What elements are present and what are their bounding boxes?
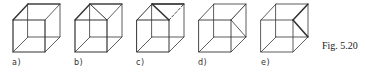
panel-label-c: c) [136, 58, 145, 67]
panel-label-d: d) [198, 58, 207, 67]
panel-label-e: e) [261, 58, 270, 67]
cubes-drawing [0, 0, 365, 72]
cube-e [261, 4, 308, 52]
cube-b [75, 4, 122, 52]
cube-a [13, 4, 60, 52]
cube-d [199, 4, 246, 52]
panel-label-b: b) [74, 58, 83, 67]
panel-label-a: a) [12, 58, 21, 67]
figure: a) b) c) d) e) Fig. 5.20 [0, 0, 365, 72]
cube-c [137, 4, 184, 52]
figure-caption: Fig. 5.20 [322, 40, 358, 51]
